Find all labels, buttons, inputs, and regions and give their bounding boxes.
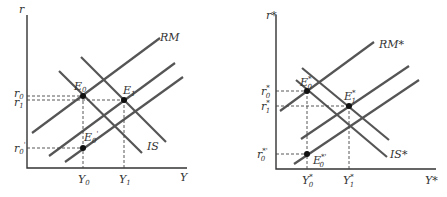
right-rm-label: RM*	[378, 38, 405, 51]
right-is-label: IS*	[389, 148, 408, 161]
right-y-axis-label: r*	[266, 9, 277, 22]
left-point-e1	[121, 97, 127, 103]
right-e1-label: E*1	[343, 89, 356, 105]
right-point-e0-prime	[304, 151, 310, 157]
diagram-canvas: r Y RM IS E0 E1 E0' r0 r1 r0' Y0 Y1 r*	[0, 0, 447, 197]
left-y-axis-label: r	[19, 3, 25, 16]
left-rm-curve	[32, 38, 160, 133]
right-y0-tick: Y*0	[302, 173, 314, 189]
left-e0-label: E0	[73, 80, 87, 94]
right-r0-tick: r*0	[261, 84, 271, 100]
left-x-axis-label: Y	[180, 171, 189, 184]
right-r1-tick: r*1	[261, 99, 270, 115]
left-panel: r Y RM IS E0 E1 E0' r0 r1 r0' Y0 Y1	[14, 3, 189, 187]
right-y1-tick: Y*1	[343, 173, 354, 189]
right-r0-prime-tick: r*'0	[257, 147, 268, 163]
right-e0-prime-label: E*'0	[312, 153, 327, 169]
right-rm-curve	[280, 42, 374, 111]
left-y1-tick: Y1	[119, 173, 131, 187]
right-e0-label: E*0	[299, 75, 313, 91]
right-panel: r* Y* RM* IS* E*0 E*1 E*'0 r*0 r*1 r*'0 …	[257, 9, 438, 189]
right-x-axis-label: Y*	[425, 174, 438, 187]
right-axes	[276, 15, 436, 169]
left-rm-label: RM	[159, 31, 180, 44]
left-r0-prime-tick: r0'	[14, 141, 26, 156]
left-e0-prime-label: E0'	[83, 130, 99, 145]
left-is-label: IS	[146, 140, 159, 153]
left-e1-label: E1	[122, 84, 136, 98]
left-y0-tick: Y0	[78, 173, 90, 187]
left-point-e0-prime	[80, 145, 86, 151]
